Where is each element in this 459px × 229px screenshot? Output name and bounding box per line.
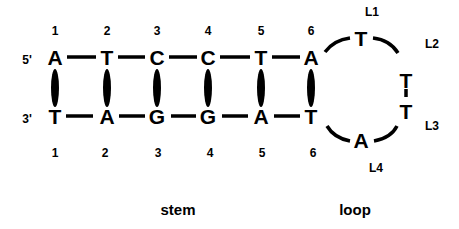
top-position-numbers: 1 2 3 4 5 6 — [52, 24, 315, 38]
top-base-1: A — [47, 46, 62, 69]
top-position-2: 2 — [104, 24, 111, 38]
bottom-position-3: 3 — [155, 146, 162, 160]
bond-2 — [103, 69, 111, 107]
bond-5 — [257, 69, 265, 107]
bottom-position-4: 4 — [207, 146, 214, 160]
loop-label-l2: L2 — [425, 37, 439, 51]
bond-4 — [204, 69, 212, 107]
stem-label: stem — [160, 201, 195, 218]
bond-3 — [153, 69, 161, 107]
bottom-base-4: G — [200, 105, 216, 128]
bottom-base-1: T — [49, 105, 62, 128]
bottom-position-6: 6 — [310, 146, 317, 160]
loop-label-l1: L1 — [365, 5, 379, 19]
top-base-2: T — [101, 46, 114, 69]
bottom-position-5: 5 — [259, 146, 266, 160]
loop-label-l3: L3 — [425, 119, 439, 133]
hairpin-diagram: 5' 3' 1 2 3 4 5 6 A T C C T A — [0, 0, 459, 229]
loop-base-l1: T — [355, 27, 368, 50]
bond-1 — [51, 69, 59, 107]
bottom-base-5: A — [253, 105, 268, 128]
loop-label-l4: L4 — [369, 161, 383, 175]
five-prime-label: 5' — [22, 53, 32, 67]
bottom-position-2: 2 — [102, 146, 109, 160]
bond-6 — [307, 69, 315, 107]
top-base-6: A — [303, 46, 318, 69]
top-position-5: 5 — [258, 24, 265, 38]
loop-base-l4: A — [353, 129, 368, 152]
top-position-3: 3 — [154, 24, 161, 38]
top-base-3: C — [149, 46, 164, 69]
base-pair-bonds — [51, 69, 315, 107]
loop-backbone — [325, 38, 406, 141]
top-position-6: 6 — [308, 24, 315, 38]
bottom-position-numbers: 1 2 3 4 5 6 — [52, 146, 317, 160]
loop-base-l2: T — [400, 69, 413, 92]
loop-label: loop — [339, 201, 371, 218]
top-position-1: 1 — [52, 24, 59, 38]
top-position-4: 4 — [205, 24, 212, 38]
top-base-4: C — [200, 46, 215, 69]
bottom-position-1: 1 — [52, 146, 59, 160]
bottom-base-6: T — [305, 105, 318, 128]
three-prime-label: 3' — [22, 112, 32, 126]
loop-base-l3: T — [400, 100, 413, 123]
bottom-base-3: G — [149, 105, 165, 128]
top-base-5: T — [255, 46, 268, 69]
loop-bases: T T T A — [353, 27, 412, 152]
bottom-base-2: A — [99, 105, 114, 128]
